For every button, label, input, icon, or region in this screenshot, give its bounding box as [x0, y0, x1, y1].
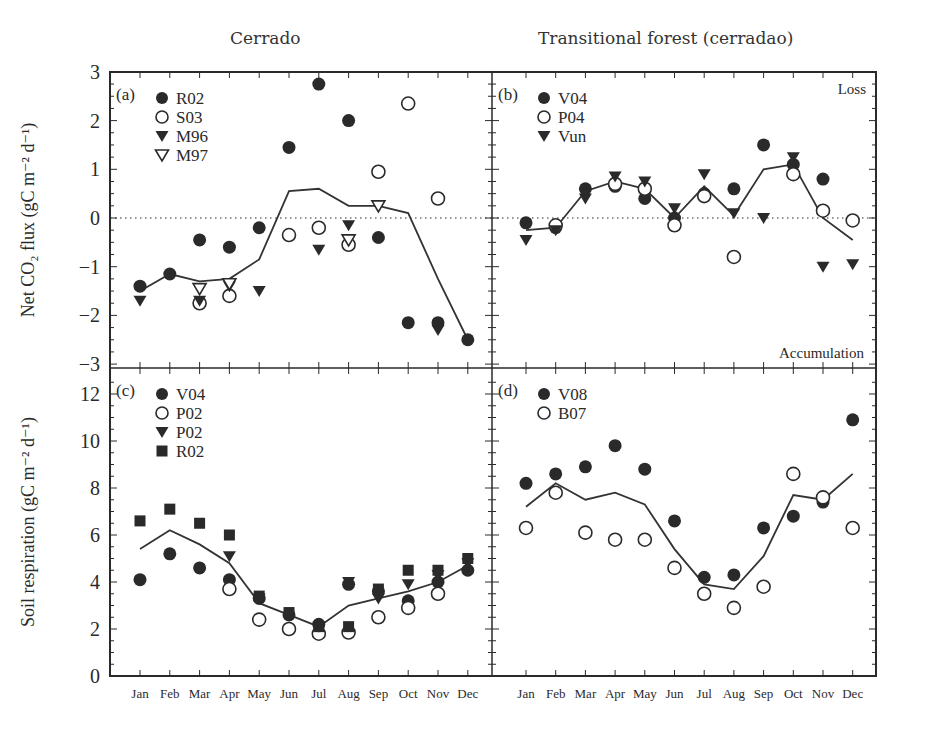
- x-tick-label: Jul: [697, 686, 713, 701]
- annotation-loss: Loss: [838, 81, 867, 97]
- data-point-vun: [520, 235, 533, 246]
- data-point-vun: [698, 169, 711, 180]
- data-point-v08: [638, 463, 651, 476]
- data-point-r02: [461, 333, 474, 346]
- data-point-p04: [817, 204, 830, 217]
- y-tick-label: −3: [79, 353, 100, 375]
- data-point-r02: [193, 233, 206, 246]
- data-point-b07: [579, 526, 592, 539]
- data-point-v04: [579, 182, 592, 195]
- data-point-s03: [283, 229, 296, 242]
- legend-entry-b07: B07: [538, 404, 587, 423]
- legend-marker-icon: [538, 131, 551, 142]
- data-point-b07: [817, 491, 830, 504]
- legend-marker-icon: [156, 111, 168, 123]
- legend-label: V08: [558, 385, 587, 404]
- legend-entry-m96: M96: [156, 127, 209, 146]
- data-point-v08: [698, 571, 711, 584]
- data-point-v08: [609, 439, 622, 452]
- data-point-v08: [579, 460, 592, 473]
- data-point-b07: [520, 521, 533, 534]
- legend-label: R02: [176, 89, 204, 108]
- data-point-m96: [342, 220, 355, 231]
- data-point-r02: [462, 553, 473, 564]
- x-tick-label: May: [633, 686, 657, 701]
- panel-content: LossAccumulation(a)R02S03M96M97(b)V04P04…: [110, 78, 876, 641]
- x-tick-label: Apr: [605, 686, 626, 701]
- data-point-vun: [846, 259, 859, 270]
- x-tick-label: Nov: [427, 686, 450, 701]
- data-point-r02: [433, 565, 444, 576]
- x-tick-label: Sep: [754, 686, 774, 701]
- data-point-p02: [253, 613, 266, 626]
- x-tick-label: Oct: [399, 686, 418, 701]
- x-tick-label: Mar: [575, 686, 597, 701]
- data-point-v04: [757, 138, 770, 151]
- legend-entry-vun: Vun: [538, 127, 587, 146]
- data-point-r02: [403, 565, 414, 576]
- panel-tag: (a): [116, 85, 135, 104]
- data-point-r02: [283, 141, 296, 154]
- x-tick-label: Sep: [369, 686, 389, 701]
- x-tick-label: Jan: [131, 686, 149, 701]
- data-point-p04: [698, 190, 711, 203]
- x-tick-label: Dec: [842, 686, 863, 701]
- data-point-p04: [846, 214, 859, 227]
- legend-label: V04: [558, 89, 588, 108]
- data-point-m96: [432, 325, 445, 336]
- data-point-v04: [134, 573, 147, 586]
- panel-d: (d)V08B07: [498, 381, 859, 614]
- data-point-vun: [817, 262, 830, 273]
- y-tick-label: 10: [80, 430, 100, 452]
- y-tick-label: 1: [90, 158, 100, 180]
- figure: −3−2−10123024681012JanFebMarAprMayJunJul…: [0, 0, 928, 738]
- x-tick-label: Jun: [280, 686, 299, 701]
- y-tick-label: 3: [90, 61, 100, 83]
- data-point-v08: [549, 467, 562, 480]
- data-point-r02: [253, 221, 266, 234]
- data-point-vun: [579, 194, 592, 205]
- legend-marker-icon: [156, 150, 169, 161]
- legend-label: P02: [176, 423, 202, 442]
- x-tick-label: Nov: [812, 686, 835, 701]
- data-point-m96: [312, 245, 325, 256]
- data-point-p02: [223, 583, 236, 596]
- y-tick-label: 6: [90, 524, 100, 546]
- data-point-r02: [373, 584, 384, 595]
- data-point-v04: [817, 173, 830, 186]
- y-tick-label: 4: [90, 571, 100, 593]
- y-tick-label: −2: [79, 304, 100, 326]
- data-point-r02: [135, 515, 146, 526]
- legend-label: R02: [176, 442, 204, 461]
- x-tick-label: Apr: [219, 686, 240, 701]
- data-point-m96: [134, 296, 147, 307]
- x-tick-label: Jan: [517, 686, 535, 701]
- data-point-r02: [224, 530, 235, 541]
- legend-marker-icon: [538, 92, 550, 104]
- legend-marker-icon: [538, 388, 550, 400]
- mean-line: [526, 474, 853, 589]
- data-point-p04: [727, 250, 740, 263]
- legend-marker-icon: [156, 407, 168, 419]
- data-point-p02: [432, 587, 445, 600]
- data-point-p02: [402, 601, 415, 614]
- data-point-m97: [193, 284, 206, 295]
- annotation-accumulation: Accumulation: [779, 345, 864, 361]
- y-tick-label: 12: [80, 383, 100, 405]
- data-point-b07: [609, 533, 622, 546]
- legend-label: Vun: [558, 127, 587, 146]
- data-point-p04: [668, 219, 681, 232]
- legend-label: V04: [176, 385, 206, 404]
- data-point-v04: [520, 216, 533, 229]
- panel-tag: (b): [498, 85, 518, 104]
- data-point-v04: [727, 182, 740, 195]
- legend-entry-v04: V04: [538, 89, 588, 108]
- legend-label: B07: [558, 404, 587, 423]
- legend-marker-icon: [157, 446, 168, 457]
- x-tick-label: Aug: [723, 686, 746, 701]
- x-tick-label: Jul: [311, 686, 327, 701]
- legend-marker-icon: [156, 427, 169, 438]
- data-point-b07: [727, 601, 740, 614]
- legend-marker-icon: [538, 111, 550, 123]
- mean-line: [140, 530, 468, 626]
